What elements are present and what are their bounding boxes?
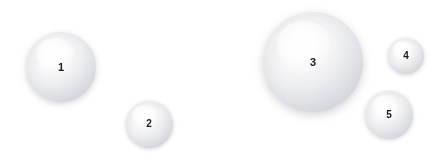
- sphere-4: 4: [388, 38, 424, 74]
- sphere-5: 5: [365, 91, 413, 139]
- sphere-diagram-canvas: 12345: [0, 0, 447, 164]
- sphere-label-5: 5: [365, 110, 413, 120]
- sphere-label-2: 2: [126, 119, 173, 129]
- sphere-label-4: 4: [388, 51, 424, 61]
- sphere-label-3: 3: [263, 57, 363, 68]
- sphere-1: 1: [26, 32, 96, 102]
- sphere-3: 3: [263, 12, 363, 112]
- sphere-2: 2: [126, 101, 173, 148]
- sphere-label-1: 1: [26, 62, 96, 73]
